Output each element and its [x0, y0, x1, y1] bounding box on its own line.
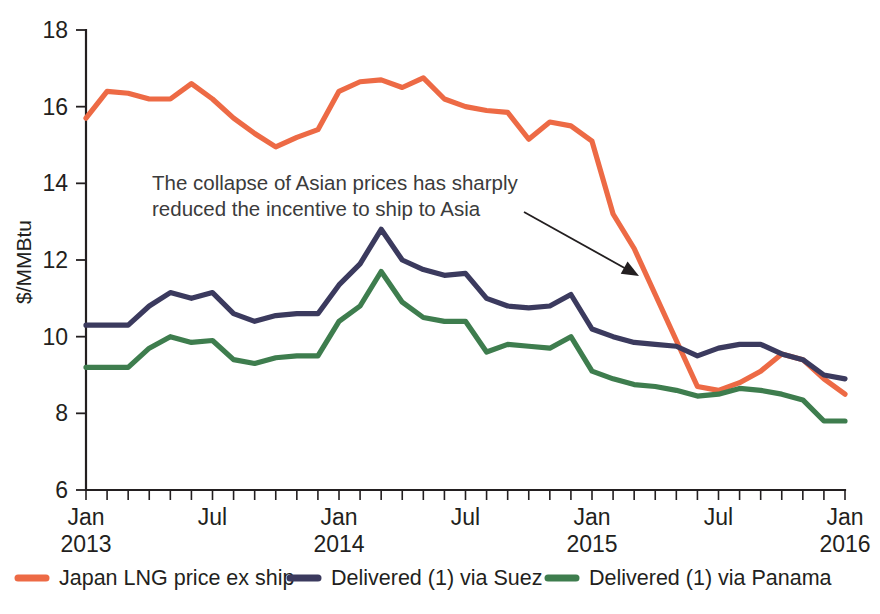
legend-item[interactable]: Delivered (1) via Panama [548, 566, 832, 590]
y-tick-label: 16 [42, 94, 68, 120]
x-axis-ticks [86, 490, 845, 500]
x-tick-label-month: Jan [320, 504, 357, 530]
x-tick-label-year: 2013 [60, 531, 111, 557]
x-tick-label-month: Jul [198, 504, 227, 530]
annotation-asia-collapse: The collapse of Asian prices has sharply… [152, 171, 639, 276]
legend-item[interactable]: Japan LNG price ex ship [18, 566, 294, 590]
chart-container: $/MMBtu 681012141618 Jan2013JulJan2014Ju… [0, 0, 880, 614]
x-tick-label-month: Jul [704, 504, 733, 530]
x-tick-label-month: Jan [573, 504, 610, 530]
y-tick-label: 10 [42, 324, 68, 350]
x-axis-tick-labels: Jan2013JulJan2014JulJan2015JulJan2016 [60, 504, 870, 557]
x-tick-label-month: Jan [67, 504, 104, 530]
x-tick-label-year: 2015 [566, 531, 617, 557]
line-chart: $/MMBtu 681012141618 Jan2013JulJan2014Ju… [0, 0, 880, 614]
series-line-delivered-1-via-suez [86, 229, 845, 378]
annotation-line-1: The collapse of Asian prices has sharply [152, 171, 519, 194]
x-tick-label-year: 2014 [313, 531, 364, 557]
annotation-line-2: reduced the incentive to ship to Asia [152, 197, 481, 220]
y-axis-ticks: 681012141618 [42, 17, 86, 503]
y-tick-label: 6 [55, 477, 68, 503]
y-axis-title: $/MMBtu [12, 220, 35, 304]
legend-item-label: Delivered (1) via Suez [331, 566, 543, 590]
y-tick-label: 14 [42, 170, 68, 196]
annotation-arrow-icon [524, 212, 639, 276]
legend-item-label: Japan LNG price ex ship [59, 566, 294, 590]
y-tick-label: 12 [42, 247, 68, 273]
x-tick-label-year: 2016 [819, 531, 870, 557]
x-tick-label-month: Jan [826, 504, 863, 530]
x-tick-label-month: Jul [451, 504, 480, 530]
legend-item[interactable]: Delivered (1) via Suez [290, 566, 543, 590]
legend-item-label: Delivered (1) via Panama [589, 566, 832, 590]
y-tick-label: 8 [55, 400, 68, 426]
series-group [86, 78, 845, 421]
y-tick-label: 18 [42, 17, 68, 43]
chart-legend: Japan LNG price ex shipDelivered (1) via… [18, 566, 832, 590]
